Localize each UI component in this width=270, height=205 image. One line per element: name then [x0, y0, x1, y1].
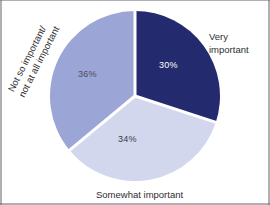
slice-label-very-important-line2: important [209, 44, 249, 57]
scan-edge-left [0, 0, 2, 205]
scan-edge-top [0, 0, 270, 1]
scan-edge-bottom [0, 203, 270, 205]
scan-edge-right [268, 0, 270, 205]
pie-chart-graphic [48, 9, 222, 183]
pie-slice-group [50, 10, 220, 181]
slice-label-very-important-line1: Very [209, 31, 249, 44]
slice-percent-somewhat-important: 34% [118, 134, 137, 144]
pie-svg [48, 9, 222, 183]
slice-percent-very-important: 30% [159, 60, 178, 70]
slice-percent-not-so-important: 36% [78, 69, 97, 79]
slice-label-somewhat-important: Somewhat important [96, 189, 183, 202]
slice-label-very-important: Very important [209, 31, 249, 56]
pie-chart-figure: 30% 34% 36% Very important Somewhat impo… [0, 0, 270, 205]
